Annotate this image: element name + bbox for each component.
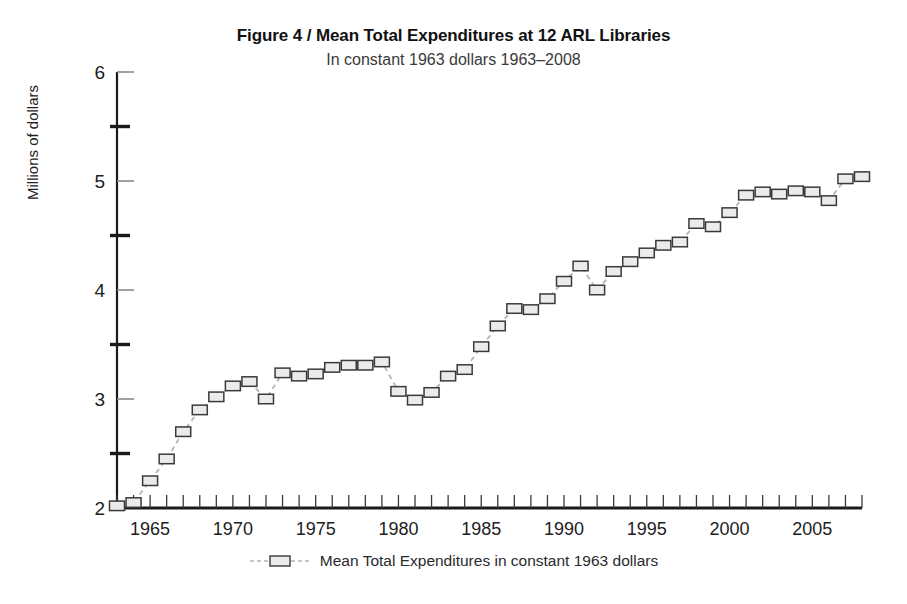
data-point-marker xyxy=(639,248,654,258)
data-point-marker xyxy=(259,394,274,404)
data-point-marker xyxy=(540,294,555,304)
x-axis-tick-label: 2000 xyxy=(710,519,750,539)
legend-label: Mean Total Expenditures in constant 1963… xyxy=(320,552,658,570)
chart-legend: Mean Total Expenditures in constant 1963… xyxy=(0,552,907,570)
data-point-marker xyxy=(656,241,671,251)
data-point-marker xyxy=(722,208,737,218)
series-markers xyxy=(110,172,870,511)
y-axis-tick-label: 5 xyxy=(94,171,105,192)
data-point-marker xyxy=(755,187,770,197)
data-point-marker xyxy=(374,357,389,367)
data-point-marker xyxy=(325,363,340,373)
data-point-marker xyxy=(706,222,721,232)
x-axis-tick-label: 1995 xyxy=(627,519,667,539)
data-point-marker xyxy=(557,277,572,287)
data-point-marker xyxy=(590,285,605,295)
chart-plot-area: 23456 1965197019751980198519901995200020… xyxy=(0,0,907,604)
data-point-marker xyxy=(739,190,754,200)
data-point-marker xyxy=(242,377,257,387)
x-axis-tick-label: 1970 xyxy=(213,519,253,539)
data-point-marker xyxy=(176,427,191,437)
data-point-marker xyxy=(275,368,290,378)
data-point-marker xyxy=(209,392,224,402)
data-point-marker xyxy=(441,371,456,381)
data-point-marker xyxy=(408,395,423,405)
data-point-marker xyxy=(391,387,406,397)
data-point-marker xyxy=(623,257,638,267)
data-point-marker xyxy=(788,186,803,196)
y-axis-tick-label: 4 xyxy=(94,280,105,301)
series-polyline xyxy=(117,177,862,506)
y-axis-tick-label: 3 xyxy=(94,389,105,410)
data-point-marker xyxy=(341,360,356,370)
data-point-marker xyxy=(126,498,141,508)
data-point-marker xyxy=(308,369,323,379)
x-axis-tick-label: 1980 xyxy=(378,519,418,539)
data-point-marker xyxy=(838,174,853,184)
data-point-marker xyxy=(292,371,307,381)
x-axis-tick-label: 1975 xyxy=(296,519,336,539)
data-point-marker xyxy=(507,304,522,314)
x-axis-tick-label: 2005 xyxy=(792,519,832,539)
data-point-marker xyxy=(672,237,687,247)
figure-root: Figure 4 / Mean Total Expenditures at 12… xyxy=(0,0,907,604)
data-point-marker xyxy=(159,454,174,464)
y-axis: 23456 xyxy=(94,62,134,519)
data-point-marker xyxy=(457,365,472,375)
data-point-marker xyxy=(606,267,621,277)
x-axis: 196519701975198019851990199520002005 xyxy=(117,495,862,539)
data-point-marker xyxy=(225,381,240,391)
data-point-marker xyxy=(358,360,373,370)
data-point-marker xyxy=(474,342,489,352)
series-line xyxy=(117,177,862,506)
x-axis-tick-label: 1965 xyxy=(130,519,170,539)
x-axis-tick-label: 1985 xyxy=(461,519,501,539)
data-point-marker xyxy=(110,501,125,511)
data-point-marker xyxy=(805,187,820,197)
data-point-marker xyxy=(772,189,787,199)
y-axis-tick-label: 2 xyxy=(94,498,105,519)
data-point-marker xyxy=(573,261,588,271)
data-point-marker xyxy=(821,196,836,206)
x-axis-tick-label: 1990 xyxy=(544,519,584,539)
y-axis-tick-label: 6 xyxy=(94,62,105,83)
legend-entry: Mean Total Expenditures in constant 1963… xyxy=(249,552,658,570)
data-point-marker xyxy=(523,305,538,315)
data-point-marker xyxy=(689,219,704,229)
data-point-marker xyxy=(143,476,158,486)
data-point-marker xyxy=(424,388,439,398)
data-point-marker xyxy=(192,405,207,415)
data-point-marker xyxy=(490,321,505,331)
data-point-marker xyxy=(855,172,870,182)
legend-swatch-icon xyxy=(249,553,311,569)
